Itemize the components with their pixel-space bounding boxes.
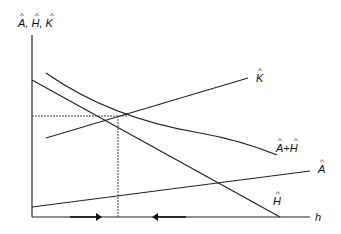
svg-text:A: A xyxy=(317,163,325,175)
curve-a-plus-h-hat xyxy=(46,73,277,155)
svg-text:H: H xyxy=(273,195,281,207)
curve-a-hat xyxy=(32,171,310,207)
svg-text:K: K xyxy=(256,72,264,84)
diagram-canvas: ^ ^ ^ A, H, K h ^ K ^ ^ A+H ^ A ^ H xyxy=(0,0,341,234)
label-k-hat: ^ K xyxy=(256,66,264,84)
label-a-plus-h-hat: ^ ^ A+H xyxy=(275,136,298,154)
y-axis-label: ^ ^ ^ A, H, K xyxy=(17,11,54,29)
curve-k-hat xyxy=(46,78,248,138)
label-a-hat: ^ A xyxy=(317,157,325,175)
arrow-left-icon xyxy=(152,213,186,221)
svg-text:A, H, K: A, H, K xyxy=(17,17,54,29)
x-axis-label: h xyxy=(315,211,321,223)
curve-h-hat xyxy=(32,80,280,217)
svg-text:A+H: A+H xyxy=(275,142,298,154)
arrow-right-icon xyxy=(70,213,102,221)
label-h-hat: ^ H xyxy=(273,189,281,207)
